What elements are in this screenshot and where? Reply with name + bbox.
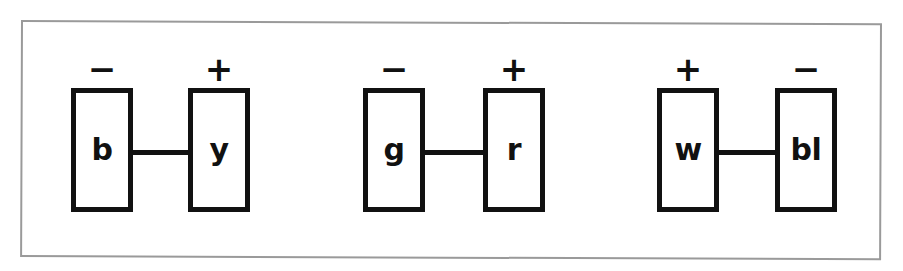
- polarity-sign-left: −: [71, 52, 133, 86]
- terminal-label-left: g: [384, 135, 405, 165]
- connector-wire: [714, 150, 777, 155]
- polarity-sign-right: +: [483, 52, 545, 86]
- polarity-sign-left: +: [657, 52, 719, 86]
- connector-pair-b-y: − + b y: [71, 52, 250, 217]
- terminal-label-left: w: [674, 135, 701, 165]
- connector-wire: [128, 150, 190, 155]
- connector-pair-w-bl: + − w bl: [657, 52, 837, 217]
- terminal-block-left: b: [71, 88, 133, 212]
- connector-wire: [420, 150, 485, 155]
- terminal-block-left: g: [363, 88, 425, 212]
- terminal-label-right: r: [507, 135, 521, 165]
- polarity-sign-left: −: [363, 52, 425, 86]
- terminal-label-right: bl: [791, 135, 822, 165]
- terminal-block-right: r: [483, 88, 545, 212]
- terminal-label-left: b: [92, 135, 113, 165]
- polarity-sign-right: −: [775, 52, 837, 86]
- figure-root: − + b y − + g r + −: [0, 0, 903, 271]
- connector-pair-g-r: − + g r: [363, 52, 545, 217]
- terminal-block-right: bl: [775, 88, 837, 212]
- terminal-block-left: w: [657, 88, 719, 212]
- polarity-sign-right: +: [188, 52, 250, 86]
- diagram-canvas: − + b y − + g r + −: [0, 0, 903, 271]
- terminal-label-right: y: [209, 135, 228, 165]
- terminal-block-right: y: [188, 88, 250, 212]
